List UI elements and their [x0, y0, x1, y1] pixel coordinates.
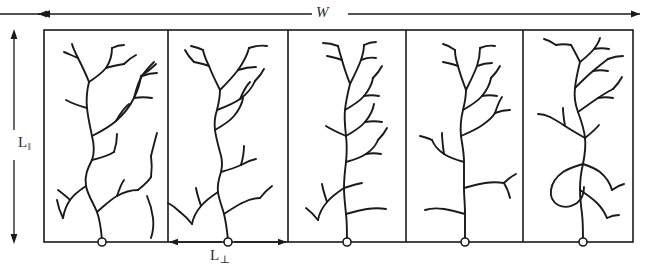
tree-4	[420, 44, 516, 240]
root-marker-3	[343, 238, 351, 246]
label-length-perpendicular-subscript: ⊥	[220, 253, 231, 265]
tree-2	[168, 46, 272, 240]
root-marker-1	[98, 238, 106, 246]
root-marker-2	[224, 238, 232, 246]
branching-tree-figure: W L‖ L⊥	[0, 0, 653, 271]
label-length-perpendicular: L⊥	[210, 247, 231, 266]
label-length-parallel-base: L	[18, 134, 28, 150]
tree-5	[538, 38, 624, 240]
label-length-perpendicular-base: L	[210, 247, 220, 263]
root-marker-5	[579, 238, 587, 246]
panel-frame	[44, 30, 633, 242]
label-width: W	[316, 4, 329, 21]
root-marker-4	[461, 238, 469, 246]
tree-1	[57, 44, 157, 240]
label-length-parallel-subscript: ‖	[28, 140, 32, 152]
label-length-parallel: L‖	[18, 134, 31, 152]
l-parallel-dimension-arrow	[11, 29, 18, 244]
figure-canvas	[0, 0, 653, 271]
tree-3	[306, 42, 387, 240]
